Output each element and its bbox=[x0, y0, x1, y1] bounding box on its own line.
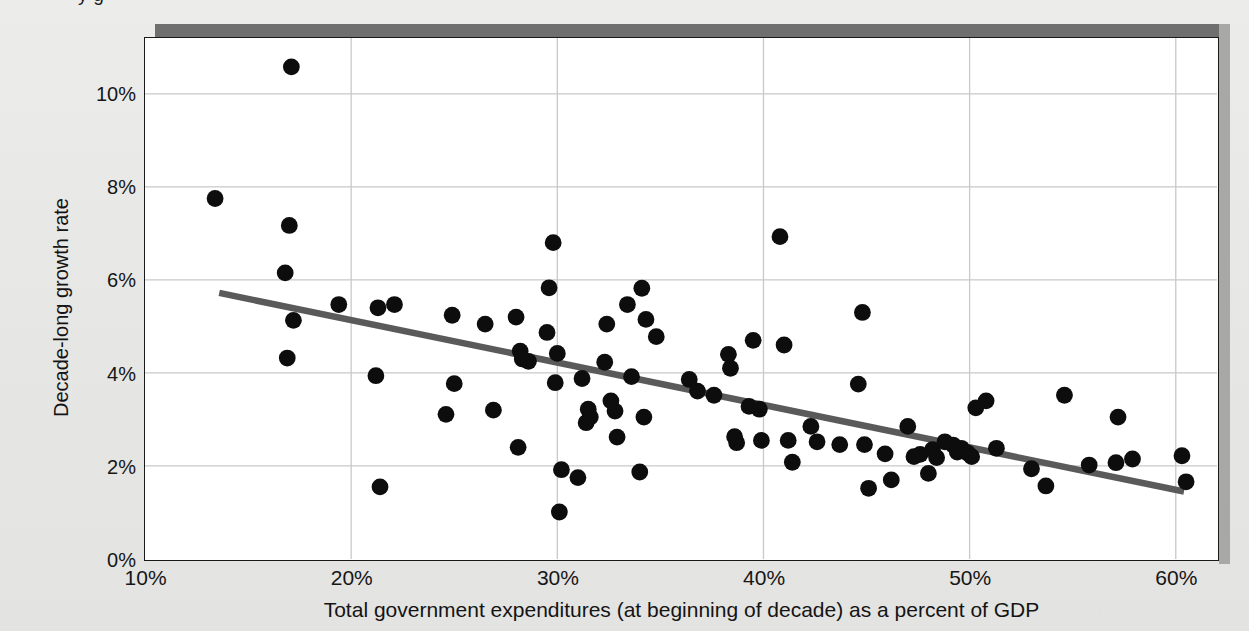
data-point bbox=[607, 403, 624, 420]
data-point bbox=[283, 58, 300, 75]
data-point bbox=[281, 217, 298, 234]
data-point bbox=[809, 433, 826, 450]
data-point bbox=[598, 316, 615, 333]
data-point bbox=[545, 234, 562, 251]
data-point bbox=[920, 465, 937, 482]
data-point bbox=[1174, 447, 1191, 464]
y-tick-label: 2% bbox=[107, 455, 136, 478]
data-point bbox=[988, 440, 1005, 457]
data-point bbox=[570, 469, 587, 486]
x-tick-label: 50% bbox=[949, 566, 991, 590]
data-point bbox=[574, 370, 591, 387]
data-point bbox=[720, 346, 737, 363]
data-point bbox=[928, 449, 945, 466]
data-point bbox=[631, 464, 648, 481]
data-point bbox=[277, 265, 294, 282]
data-point bbox=[609, 429, 626, 446]
scatter-plot-figure: 0%2%4%6%8%10% Decade-long growth rate To… bbox=[0, 0, 1249, 631]
y-axis-title: Decade-long growth rate bbox=[50, 183, 73, 433]
data-point bbox=[1110, 409, 1127, 426]
data-point bbox=[596, 354, 613, 371]
data-point bbox=[978, 392, 995, 409]
y-tick-label: 8% bbox=[107, 176, 136, 199]
plot-drop-shadow-top bbox=[155, 24, 1229, 37]
data-point bbox=[1023, 460, 1040, 477]
data-point bbox=[551, 504, 568, 521]
data-point bbox=[1124, 451, 1141, 468]
data-point bbox=[648, 328, 665, 345]
plot-canvas bbox=[145, 38, 1217, 559]
data-point bbox=[367, 367, 384, 384]
data-point bbox=[485, 402, 502, 419]
data-point bbox=[753, 432, 770, 449]
data-point bbox=[772, 228, 789, 245]
data-point bbox=[438, 406, 455, 423]
data-point bbox=[850, 376, 867, 393]
plot-drop-shadow-right bbox=[1219, 24, 1230, 564]
data-point bbox=[745, 332, 762, 349]
data-point bbox=[547, 374, 564, 391]
data-point bbox=[728, 434, 745, 451]
data-point bbox=[372, 478, 389, 495]
data-point bbox=[860, 480, 877, 497]
data-point bbox=[477, 316, 494, 333]
data-point bbox=[706, 387, 723, 404]
y-tick-label: 10% bbox=[96, 83, 136, 106]
data-point bbox=[635, 409, 652, 426]
x-axis-title: Total government expenditures (at beginn… bbox=[144, 598, 1219, 622]
data-point bbox=[539, 324, 556, 341]
plot-area bbox=[144, 37, 1219, 561]
x-tick-label: 20% bbox=[331, 566, 373, 590]
data-point bbox=[1178, 473, 1195, 490]
data-point bbox=[1081, 457, 1098, 474]
x-tick-label: 60% bbox=[1155, 566, 1197, 590]
data-point bbox=[549, 345, 566, 362]
data-point bbox=[802, 418, 819, 435]
data-point bbox=[856, 436, 873, 453]
x-tick-label: 30% bbox=[537, 566, 579, 590]
data-point bbox=[1056, 387, 1073, 404]
y-tick-label: 4% bbox=[107, 362, 136, 385]
data-point bbox=[520, 353, 537, 370]
data-point bbox=[638, 311, 655, 328]
data-point bbox=[780, 432, 797, 449]
data-point bbox=[963, 448, 980, 465]
data-point bbox=[386, 296, 403, 313]
data-point bbox=[541, 279, 558, 296]
data-point bbox=[689, 383, 706, 400]
data-point bbox=[633, 280, 650, 297]
y-tick-label: 6% bbox=[107, 269, 136, 292]
data-point bbox=[623, 368, 640, 385]
data-point bbox=[1108, 454, 1125, 471]
data-point bbox=[854, 304, 871, 321]
data-point bbox=[578, 414, 595, 431]
data-point bbox=[831, 436, 848, 453]
data-point bbox=[553, 461, 570, 478]
x-tick-label: 40% bbox=[743, 566, 785, 590]
data-point bbox=[510, 439, 527, 456]
data-point bbox=[330, 296, 347, 313]
data-point bbox=[508, 309, 525, 326]
data-point bbox=[279, 350, 296, 367]
data-point bbox=[899, 418, 916, 435]
data-point bbox=[877, 445, 894, 462]
data-point bbox=[619, 296, 636, 313]
data-point bbox=[285, 312, 302, 329]
data-point bbox=[751, 401, 768, 418]
data-point bbox=[446, 375, 463, 392]
data-point bbox=[784, 454, 801, 471]
x-tick-label: 10% bbox=[125, 566, 167, 590]
data-point bbox=[1037, 478, 1054, 495]
data-point bbox=[776, 337, 793, 354]
data-point bbox=[883, 472, 900, 489]
data-point bbox=[444, 307, 461, 324]
data-point bbox=[370, 299, 387, 316]
data-point bbox=[207, 190, 224, 207]
